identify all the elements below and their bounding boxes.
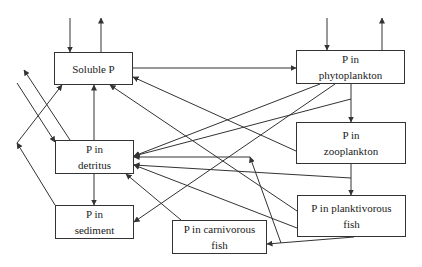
node-label: Soluble P: [72, 61, 114, 77]
node-label: P in sediment: [75, 206, 115, 238]
arrow-zooplankton_link-to-detritus: [134, 165, 351, 178]
arrow-zooplankton-to-soluble_p: [133, 77, 296, 151]
node-label: P in detritus: [78, 141, 111, 173]
arrow-external-to-detritus: [17, 83, 55, 142]
node-label: P in carnivorous fish: [184, 221, 256, 253]
node-detritus: P in detritus: [55, 140, 134, 174]
node-phytoplankton: P in phytoplankton: [296, 50, 405, 84]
node-zooplankton: P in zooplankton: [296, 122, 406, 164]
node-sediment: P in sediment: [55, 205, 134, 239]
node-label: P in phytoplankton: [319, 51, 383, 83]
arrow-sediment-to-outside: [17, 143, 55, 205]
node-planktivorous-fish: P in planktivorous fish: [297, 195, 406, 237]
arrow-carnivorous_fish-to-detritus: [126, 174, 181, 220]
node-label: P in zooplankton: [324, 127, 378, 159]
node-label: P in planktivorous fish: [311, 200, 391, 232]
node-carnivorous-fish: P in carnivorous fish: [172, 220, 267, 254]
node-soluble-p: Soluble P: [54, 52, 133, 85]
